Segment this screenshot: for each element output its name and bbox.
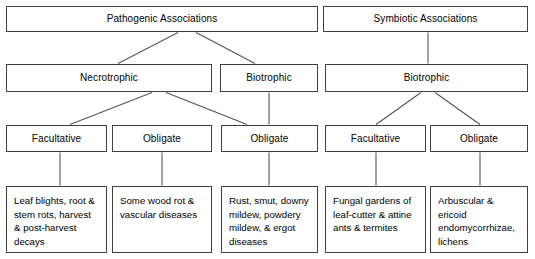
node-label: Symbiotic Associations	[374, 13, 478, 25]
node-label: Obligate	[143, 133, 181, 145]
node-label: Obligate	[460, 133, 498, 145]
node-symbiotic-facultative: Facultative	[325, 125, 426, 152]
node-biotrophic-symbiotic: Biotrophic	[325, 64, 528, 92]
node-biotrophic-pathogenic: Biotrophic	[220, 64, 318, 92]
leaf-label: Rust, smut, downy mildew, powdery mildew…	[229, 194, 310, 248]
node-necrotrophic-obligate: Obligate	[112, 125, 212, 152]
node-symbiotic-facultative-examples: Fungal gardens of leaf-cutter & attine a…	[325, 186, 426, 253]
association-hierarchy-diagram: Pathogenic Associations Symbiotic Associ…	[0, 0, 535, 259]
node-necrotrophic-obligate-examples: Some wood rot & vascular diseases	[112, 186, 212, 253]
node-symbiotic-associations: Symbiotic Associations	[323, 6, 528, 32]
node-pathogenic-associations: Pathogenic Associations	[6, 6, 318, 32]
leaf-label: Arbuscular & ericoid endomycorrhizae, li…	[438, 194, 520, 248]
node-symbiotic-obligate: Obligate	[430, 125, 528, 152]
node-label: Necrotrophic	[80, 72, 138, 84]
node-label: Facultative	[32, 133, 81, 145]
node-label: Facultative	[351, 133, 400, 145]
leaf-label: Some wood rot & vascular diseases	[120, 194, 204, 221]
leaf-label: Fungal gardens of leaf-cutter & attine a…	[333, 194, 418, 235]
node-label: Obligate	[250, 133, 288, 145]
node-label: Biotrophic	[246, 72, 291, 84]
node-biotrophic-pathogenic-obligate-examples: Rust, smut, downy mildew, powdery mildew…	[221, 186, 318, 253]
node-label: Biotrophic	[404, 72, 449, 84]
leaf-label: Leaf blights, root & stem rots, harvest …	[14, 194, 99, 248]
node-necrotrophic: Necrotrophic	[6, 64, 212, 92]
node-label: Pathogenic Associations	[107, 13, 218, 25]
node-biotrophic-pathogenic-obligate: Obligate	[221, 125, 318, 152]
node-symbiotic-obligate-examples: Arbuscular & ericoid endomycorrhizae, li…	[430, 186, 528, 253]
node-necrotrophic-facultative: Facultative	[6, 125, 107, 152]
node-necrotrophic-facultative-examples: Leaf blights, root & stem rots, harvest …	[6, 186, 107, 253]
